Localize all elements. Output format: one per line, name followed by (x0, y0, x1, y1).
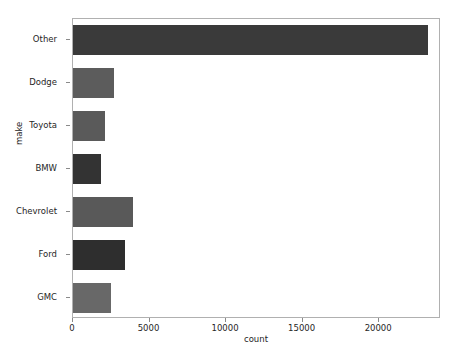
bar-row (73, 190, 441, 233)
x-ticklabel-20000: 20000 (365, 323, 392, 333)
x-ticklabel-15000: 15000 (288, 323, 315, 333)
y-ticklabel-chevrolet: Chevrolet (16, 189, 57, 232)
y-tickmark (66, 39, 70, 40)
y-tickmark (66, 254, 70, 255)
y-ticklabel-other: Other (33, 18, 57, 61)
y-tickmark (66, 297, 70, 298)
x-tickmark (72, 318, 73, 322)
y-tickmark (66, 211, 70, 212)
y-ticklabel-dodge: Dodge (29, 61, 57, 104)
y-ticklabel-ford: Ford (38, 232, 57, 275)
bar-other[interactable] (73, 25, 428, 55)
y-ticklabel-toyota: Toyota (29, 104, 57, 147)
y-ticklabel-bmw: BMW (35, 147, 57, 190)
y-tickmark (66, 125, 70, 126)
x-ticklabel-10000: 10000 (212, 323, 239, 333)
x-ticklabel-5000: 5000 (138, 323, 160, 333)
bars-layer (73, 19, 439, 317)
bar-toyota[interactable] (73, 111, 105, 141)
bar-row (73, 105, 441, 148)
y-axis-ticklabels: OtherDodgeToyotaBMWChevroletFordGMC (0, 18, 66, 318)
bar-row (73, 276, 441, 319)
bar-row (73, 233, 441, 276)
bar-gmc[interactable] (73, 283, 111, 313)
x-ticklabel-0: 0 (69, 323, 74, 333)
y-tickmark (66, 82, 70, 83)
x-tickmark (302, 318, 303, 322)
bar-bmw[interactable] (73, 154, 101, 184)
bar-dodge[interactable] (73, 68, 114, 98)
bar-ford[interactable] (73, 240, 125, 270)
x-axis-label: count (72, 334, 440, 344)
x-axis-label-text: count (244, 334, 268, 344)
y-ticklabel-gmc: GMC (37, 275, 57, 318)
figure-canvas: make OtherDodgeToyotaBMWChevroletFordGMC… (0, 0, 469, 354)
bar-chevrolet[interactable] (73, 197, 133, 227)
x-tickmark (149, 318, 150, 322)
x-tickmark (225, 318, 226, 322)
plot-area (72, 18, 440, 318)
y-tickmark (66, 168, 70, 169)
x-tickmark (378, 318, 379, 322)
bar-row (73, 62, 441, 105)
bar-row (73, 148, 441, 191)
bar-row (73, 19, 441, 62)
